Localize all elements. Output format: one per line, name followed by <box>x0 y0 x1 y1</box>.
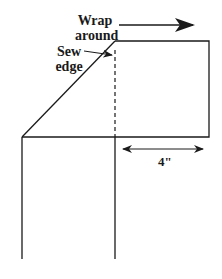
sew-edge-label: Sew edge <box>54 44 84 74</box>
flap-outline <box>115 41 209 137</box>
wrap-label-line1: Wrap <box>75 13 115 28</box>
wrap-label-line2: around <box>75 28 115 43</box>
measurement-label: 4" <box>158 154 172 169</box>
sew-edge-pointer <box>84 51 112 55</box>
wrap-around-label: Wrap around <box>75 13 115 43</box>
sew-label-line1: Sew <box>54 44 84 59</box>
sew-label-line2: edge <box>54 59 84 74</box>
